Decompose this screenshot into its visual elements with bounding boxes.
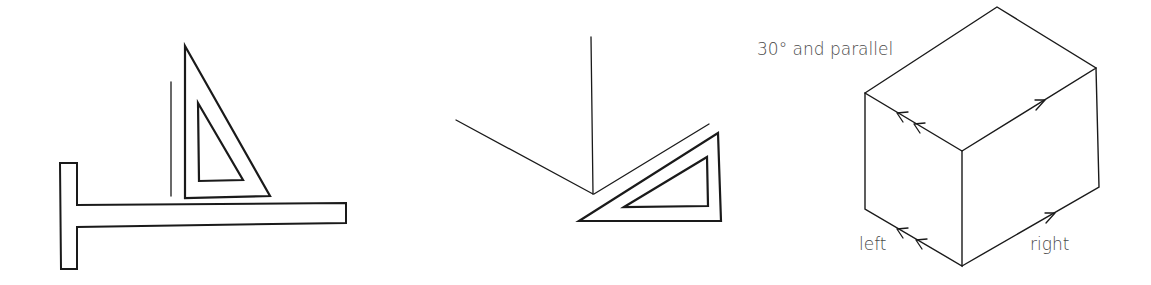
left-label: left	[859, 234, 887, 254]
right-label: right	[1030, 234, 1069, 254]
set-square-30	[579, 133, 721, 221]
t-square	[60, 163, 346, 269]
isometric-box	[865, 7, 1099, 266]
construction-lines	[456, 37, 709, 194]
diagram-canvas	[0, 0, 1151, 285]
angle-label: 30° and parallel	[757, 39, 893, 59]
set-square-upright	[185, 46, 270, 198]
